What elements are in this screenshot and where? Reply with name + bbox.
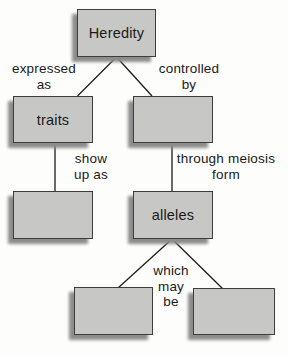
edge-label-through-meiosis-form: through meiosis form — [170, 151, 282, 182]
node-alleles-label: alleles — [152, 207, 195, 223]
edge-label-which-may-be: which may be — [140, 263, 202, 310]
edge-label-expressed-as: expressed as — [8, 61, 80, 92]
node-heredity-label: Heredity — [89, 25, 145, 41]
edge-label-controlled-by-line2: by — [153, 77, 225, 93]
edge-label-which-may-be-line3: be — [140, 294, 202, 310]
edge-label-through-meiosis-form-line1: through meiosis — [170, 151, 282, 167]
edge-label-show-up-as-line1: show — [58, 151, 124, 167]
edge-heredity-traits — [78, 57, 117, 96]
node-which-may-be-right — [193, 288, 275, 335]
node-alleles: alleles — [133, 191, 213, 239]
edge-label-through-meiosis-form-line2: form — [170, 167, 282, 183]
node-controlled-by-target — [133, 96, 213, 143]
node-heredity: Heredity — [77, 9, 156, 57]
edge-label-show-up-as: show up as — [58, 151, 124, 182]
edge-label-expressed-as-line2: as — [8, 77, 80, 93]
node-traits-label: traits — [37, 112, 70, 128]
edge-label-expressed-as-line1: expressed — [8, 61, 80, 77]
edge-label-which-may-be-line1: which — [140, 263, 202, 279]
heredity-concept-map: Heredity traits alleles expressed as con… — [0, 0, 288, 355]
edge-label-show-up-as-line2: up as — [58, 167, 124, 183]
edge-label-which-may-be-line2: may — [140, 279, 202, 295]
node-show-up-as-target — [13, 191, 93, 239]
edge-heredity-controlled — [117, 57, 153, 96]
node-traits: traits — [13, 96, 93, 143]
edge-label-controlled-by-line1: controlled — [153, 61, 225, 77]
edge-label-controlled-by: controlled by — [153, 61, 225, 92]
